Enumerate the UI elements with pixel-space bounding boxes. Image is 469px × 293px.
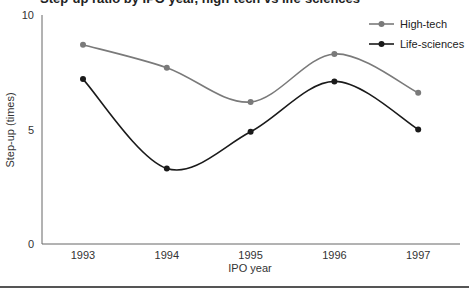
data-point-life-sciences-1993	[80, 76, 86, 82]
legend-swatch-marker	[379, 21, 385, 27]
x-tick-label: 1997	[406, 249, 430, 261]
series-life-sciences	[80, 76, 421, 171]
data-point-life-sciences-1994	[164, 165, 170, 171]
y-tick-labels: 0510	[22, 9, 34, 250]
data-point-high-tech-1995	[248, 99, 254, 105]
x-tick-label: 1994	[155, 249, 179, 261]
y-tick-label: 10	[22, 9, 34, 21]
data-point-life-sciences-1997	[415, 127, 421, 133]
data-point-high-tech-1996	[331, 51, 337, 57]
legend-label: Life-sciences	[400, 38, 465, 50]
data-point-life-sciences-1995	[248, 129, 254, 135]
x-tick-label: 1995	[238, 249, 262, 261]
legend: High-techLife-sciences	[369, 18, 465, 50]
x-tick-label: 1993	[71, 249, 95, 261]
legend-item-life-sciences: Life-sciences	[369, 38, 465, 50]
data-point-high-tech-1993	[80, 42, 86, 48]
y-axis-title: Step-up (times)	[4, 92, 16, 167]
x-tick-label: 1996	[322, 249, 346, 261]
y-tick-label: 0	[28, 238, 34, 250]
data-point-high-tech-1997	[415, 90, 421, 96]
series-group	[80, 42, 421, 172]
x-tick-labels: 19931994199519961997	[71, 249, 431, 261]
series-line-life-sciences	[83, 79, 418, 170]
x-axis-title: IPO year	[228, 262, 272, 274]
data-point-life-sciences-1996	[331, 78, 337, 84]
line-chart: 0510 19931994199519961997 IPO year Step-…	[0, 0, 469, 293]
data-point-high-tech-1994	[164, 65, 170, 71]
legend-item-high-tech: High-tech	[369, 18, 447, 30]
bottom-rule	[0, 286, 469, 288]
y-tick-label: 5	[28, 124, 34, 136]
legend-swatch-marker	[379, 41, 385, 47]
legend-label: High-tech	[400, 18, 447, 30]
